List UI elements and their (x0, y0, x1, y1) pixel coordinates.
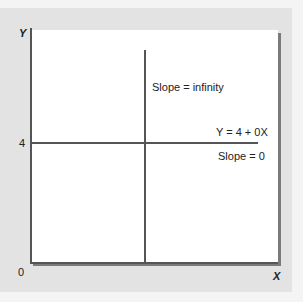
y-tick-4: 4 (19, 137, 25, 149)
horizontal-equation-label: Y = 4 + 0X (216, 126, 268, 138)
y-axis-line (30, 28, 32, 264)
horizontal-slope-annotation: Slope = 0 (218, 150, 265, 162)
x-axis-line (30, 262, 278, 264)
vertical-line-slope-infinity (144, 50, 146, 264)
y-axis-label: Y (19, 27, 26, 39)
plot-area (30, 30, 278, 263)
vertical-slope-annotation: Slope = infinity (152, 81, 224, 93)
x-axis-label: X (273, 270, 280, 282)
origin-label: 0 (18, 266, 24, 278)
